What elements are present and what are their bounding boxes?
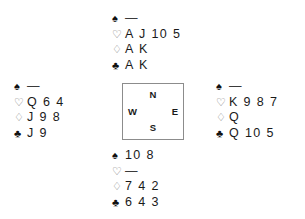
hand-east-diamonds-row: ♢ Q — [216, 110, 278, 126]
hand-east-clubs-cards: Q 10 5 — [229, 126, 275, 142]
heart-icon: ♡ — [14, 95, 27, 111]
hand-east-spades-cards: — — [229, 79, 242, 95]
hand-north-spades-row: ♠ — — [112, 11, 181, 27]
compass-label-north: N — [150, 90, 157, 100]
hand-west-clubs-row: ♣ J 9 — [14, 126, 65, 142]
spade-icon: ♠ — [112, 148, 125, 164]
compass-box: N W E S — [122, 83, 184, 140]
hand-west: ♠ — ♡ Q 6 4 ♢ J 9 8 ♣ J 9 — [14, 79, 65, 141]
hand-south-diamonds-row: ♢ 7 4 2 — [112, 179, 160, 195]
hand-west-clubs-cards: J 9 — [27, 126, 48, 142]
hand-south-diamonds-cards: 7 4 2 — [125, 179, 160, 195]
heart-icon: ♡ — [112, 27, 125, 43]
spade-icon: ♠ — [112, 11, 125, 27]
diamond-icon: ♢ — [216, 110, 229, 126]
hand-west-hearts-row: ♡ Q 6 4 — [14, 95, 65, 111]
hand-west-spades-cards: — — [27, 79, 40, 95]
hand-north-hearts-row: ♡ A J 10 5 — [112, 27, 181, 43]
spade-icon: ♠ — [216, 79, 229, 95]
hand-west-hearts-cards: Q 6 4 — [27, 95, 65, 111]
compass-label-west: W — [128, 107, 137, 117]
hand-south-clubs-cards: 6 4 3 — [125, 195, 160, 211]
hand-south-hearts-cards: — — [125, 164, 138, 180]
compass-label-south: S — [150, 123, 156, 133]
hand-south-hearts-row: ♡ — — [112, 164, 160, 180]
club-icon: ♣ — [14, 126, 27, 142]
heart-icon: ♡ — [112, 164, 125, 180]
bridge-hand-diagram: ♠ — ♡ A J 10 5 ♢ A K ♣ A K ♠ — ♡ Q 6 4 ♢… — [0, 0, 305, 219]
hand-south-spades-cards: 10 8 — [125, 148, 155, 164]
hand-west-diamonds-cards: J 9 8 — [27, 110, 61, 126]
hand-west-diamonds-row: ♢ J 9 8 — [14, 110, 65, 126]
hand-south-clubs-row: ♣ 6 4 3 — [112, 195, 160, 211]
hand-east-diamonds-cards: Q — [229, 110, 240, 126]
club-icon: ♣ — [112, 195, 125, 211]
club-icon: ♣ — [216, 126, 229, 142]
hand-south: ♠ 10 8 ♡ — ♢ 7 4 2 ♣ 6 4 3 — [112, 148, 160, 210]
diamond-icon: ♢ — [112, 179, 125, 195]
hand-north: ♠ — ♡ A J 10 5 ♢ A K ♣ A K — [112, 11, 181, 73]
hand-east-hearts-cards: K 9 8 7 — [229, 95, 278, 111]
diamond-icon: ♢ — [14, 110, 27, 126]
hand-west-spades-row: ♠ — — [14, 79, 65, 95]
hand-north-diamonds-row: ♢ A K — [112, 42, 181, 58]
hand-south-spades-row: ♠ 10 8 — [112, 148, 160, 164]
hand-north-hearts-cards: A J 10 5 — [125, 27, 181, 43]
hand-north-diamonds-cards: A K — [125, 42, 149, 58]
hand-east: ♠ — ♡ K 9 8 7 ♢ Q ♣ Q 10 5 — [216, 79, 278, 141]
hand-north-spades-cards: — — [125, 11, 138, 27]
club-icon: ♣ — [112, 58, 125, 74]
hand-east-hearts-row: ♡ K 9 8 7 — [216, 95, 278, 111]
heart-icon: ♡ — [216, 95, 229, 111]
diamond-icon: ♢ — [112, 42, 125, 58]
compass-label-east: E — [172, 107, 178, 117]
hand-east-spades-row: ♠ — — [216, 79, 278, 95]
spade-icon: ♠ — [14, 79, 27, 95]
hand-north-clubs-cards: A K — [125, 58, 149, 74]
hand-east-clubs-row: ♣ Q 10 5 — [216, 126, 278, 142]
hand-north-clubs-row: ♣ A K — [112, 58, 181, 74]
